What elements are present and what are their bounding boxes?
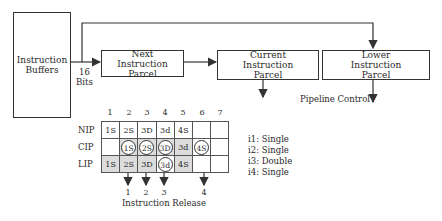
legend-item: i3: Double <box>248 156 292 166</box>
circled-entry: 3d <box>158 157 173 172</box>
grid-cell: 4S <box>174 122 192 139</box>
release-number: 2 <box>140 188 152 197</box>
bus-width-label: 16 <box>79 67 90 77</box>
current-instruction-parcel-block: Current Instruction Parcel <box>217 50 319 80</box>
row-label-nip: NIP <box>78 125 95 135</box>
instruction-buffers-block: Instruction Buffers <box>13 12 71 118</box>
grid-row-lip: 1S 2S 3D 3d 4S <box>102 156 229 173</box>
grid-cell: 1S <box>102 122 120 139</box>
circled-entry: 1S <box>121 140 136 155</box>
grid-cell: 1S <box>102 156 120 173</box>
grid-cell <box>192 156 210 173</box>
grid-cell <box>102 139 120 156</box>
grid-cell: 3D <box>138 122 156 139</box>
circled-entry: 3D <box>158 140 173 155</box>
grid-cell: 1S <box>120 139 138 156</box>
column-number: 6 <box>193 108 211 117</box>
row-label-lip: LIP <box>78 159 93 169</box>
grid-cell: 3d <box>156 156 174 173</box>
grid-cell: 4S <box>192 139 210 156</box>
grid-cell: 4S <box>174 156 192 173</box>
circled-entry: 2S <box>139 140 154 155</box>
grid-cell <box>211 139 229 156</box>
column-number: 4 <box>156 108 174 117</box>
release-number: 4 <box>198 188 210 197</box>
column-number: 3 <box>138 108 156 117</box>
row-label-cip: CIP <box>78 142 94 152</box>
instruction-release-label: Instruction Release <box>122 198 206 208</box>
grid-row-cip: 1S 2S 3D 3d 4S <box>102 139 229 156</box>
legend-item: i4: Single <box>248 167 289 177</box>
grid-row-nip: 1S 2S 3D 3d 4S <box>102 122 229 139</box>
grid-cell <box>211 156 229 173</box>
column-number: 5 <box>174 108 192 117</box>
column-number: 2 <box>120 108 138 117</box>
grid-cell: 2S <box>120 122 138 139</box>
pipeline-control-label: Pipeline Control <box>300 94 370 104</box>
legend-item: i2: Single <box>248 145 289 155</box>
next-instruction-parcel-block: Next Instruction Parcel <box>101 50 184 77</box>
grid-cell: 3D <box>138 156 156 173</box>
grid-cell <box>211 122 229 139</box>
grid-cell: 3D <box>156 139 174 156</box>
legend-item: i1: Single <box>248 134 289 144</box>
grid-cell: 3d <box>174 139 192 156</box>
column-number: 1 <box>101 108 119 117</box>
release-number: 3 <box>158 188 170 197</box>
grid-cell: 3d <box>156 122 174 139</box>
circled-entry: 4S <box>194 140 209 155</box>
column-number: 7 <box>211 108 229 117</box>
grid-cell: 2S <box>120 156 138 173</box>
grid-cell <box>192 122 210 139</box>
bus-width-unit-label: Bits <box>76 77 93 87</box>
pipeline-timing-grid: 1S 2S 3D 3d 4S 1S 2S 3D 3d 4S 1S 2S 3D 3… <box>101 121 229 173</box>
grid-cell: 2S <box>138 139 156 156</box>
release-number: 1 <box>122 188 134 197</box>
lower-instruction-parcel-block: Lower Instruction Parcel <box>322 50 430 80</box>
